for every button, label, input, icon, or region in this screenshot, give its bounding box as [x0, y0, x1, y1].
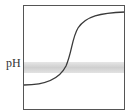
plot-frame: [24, 6, 125, 110]
indicator-band: [24, 62, 125, 73]
titration-curve: [24, 12, 125, 85]
plot-area: [0, 0, 127, 112]
